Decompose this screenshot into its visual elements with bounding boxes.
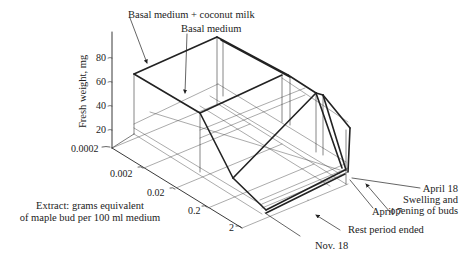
annotation-basal-coconut: Basal medium + coconut milk: [128, 9, 255, 20]
annotation-april18: April 18: [390, 183, 458, 194]
depth-tick-0.02: 0.02: [147, 187, 165, 198]
depth-tick-2: 2: [229, 222, 234, 233]
depth-axis-label-line1: Extract: grams equivalent: [6, 200, 174, 211]
y-tick-40: 40: [88, 100, 106, 111]
annotation-april7: April 7: [372, 206, 402, 217]
leader-basal-coconut: [130, 18, 147, 63]
depth-tick-0.2: 0.2: [188, 205, 201, 216]
depth-tick-0.002: 0.002: [110, 168, 133, 179]
leader-basal: [185, 34, 187, 93]
leader-april7: [350, 180, 373, 208]
depth-axis-label-line2: of maple bud per 100 ml medium: [6, 212, 174, 223]
leader-nov18: [265, 213, 300, 236]
leader-rest: [316, 215, 340, 230]
annotation-rest-period: Rest period ended: [348, 224, 424, 235]
annotation-swelling-line1: Swelling and: [376, 194, 458, 205]
annotation-nov18: Nov. 18: [315, 240, 348, 251]
y-tick-20: 20: [88, 124, 106, 135]
y-tick-80: 80: [88, 52, 106, 63]
annotation-basal: Basal medium: [181, 23, 241, 34]
y-axis-label: Fresh weight, mg: [77, 55, 88, 128]
y-tick-60: 60: [88, 76, 106, 87]
depth-tick-0.0002: 0.0002: [71, 143, 99, 154]
